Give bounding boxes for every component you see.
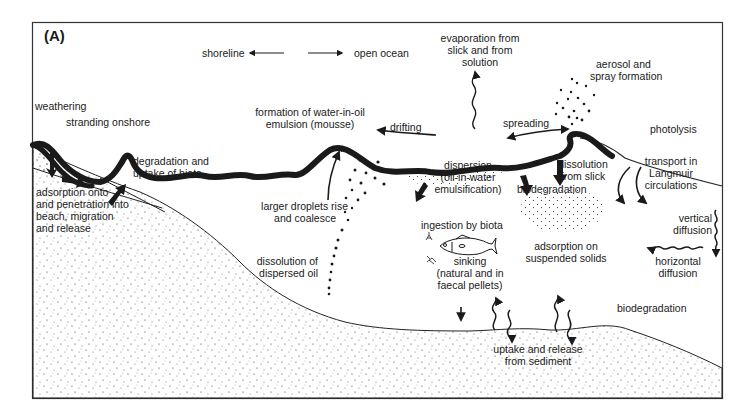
sinking-label: sinking(natural and infaecal pellets)	[430, 255, 510, 291]
biodegradation-lower-label: biodegradation	[617, 302, 686, 314]
vertical-diffusion-arrow	[715, 210, 717, 256]
stranding-label: stranding onshore	[66, 116, 150, 128]
panel-label: (A)	[44, 27, 65, 44]
horizontal-diffusion-label: horizontaldiffusion	[646, 255, 710, 279]
drifting-label: drifting	[390, 121, 422, 133]
spreading-label: spreading	[503, 117, 549, 129]
horizontal-diffusion-arrow	[648, 247, 703, 250]
droplet-trail	[328, 158, 386, 295]
dispersion-label: dispersion(oil-in-wateremulsification)	[428, 159, 508, 195]
spreading-arrow	[508, 129, 568, 138]
fish-icon	[440, 235, 497, 255]
evaporation-label: evaporation fromslick and fromsolution	[430, 32, 530, 68]
adsorption-beach-label: adsorption ontoand penetration into beac…	[36, 186, 129, 234]
aerosol-label: aerosol andspray formation	[590, 58, 662, 82]
degradation-label: degradation anduptake of biota	[133, 155, 209, 179]
photolysis-label: photolysis	[650, 123, 697, 135]
oil-spill-fate-diagram: (A) shoreline open ocean evaporation fro…	[0, 0, 753, 400]
evaporation-arrow	[472, 72, 476, 129]
adsorption-solids-label: adsorption onsuspended solids	[516, 240, 616, 264]
weathering-label: weathering	[35, 100, 86, 112]
dissolution-dispersed-label: dissolution ofdispersed oil	[240, 255, 318, 279]
vertical-diffusion-label: verticaldiffusion	[660, 212, 712, 236]
langmuir-arrow-left	[618, 167, 630, 203]
oil-slick	[33, 134, 612, 182]
biodegradation-upper-label: biodegradation	[517, 183, 586, 195]
larger-droplets-label: larger droplets riseand coalesce	[248, 200, 348, 224]
sediment-label: uptake and releasefrom sediment	[488, 343, 588, 367]
aerosol-dots	[555, 78, 595, 125]
mousse-label: formation of water-in-oilemulsion (mouss…	[240, 106, 380, 130]
dissolution-slick-label: dissolutionfrom slick	[548, 158, 618, 182]
langmuir-label: transport inLangmuircirculations	[636, 155, 706, 191]
open-ocean-label: open ocean	[354, 47, 409, 59]
shoreline-label: shoreline	[202, 47, 245, 59]
rise-arrow	[328, 152, 339, 200]
ingestion-label: ingestion by biota	[421, 219, 503, 231]
